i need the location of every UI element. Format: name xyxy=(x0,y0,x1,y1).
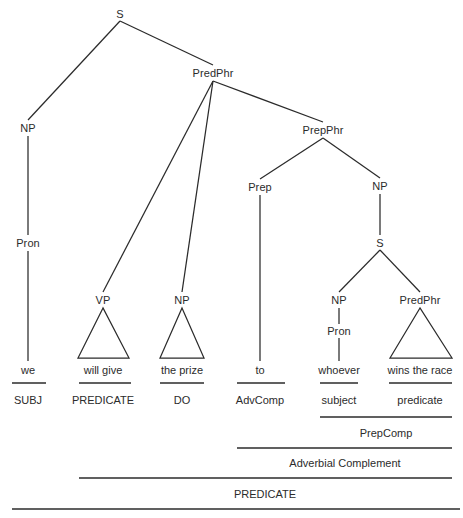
func-subject: subject xyxy=(322,395,357,406)
func-subj: SUBJ xyxy=(14,395,42,406)
node-pron-embedded: Pron xyxy=(327,326,351,337)
node-prep: Prep xyxy=(248,182,272,193)
leaf-the-prize: the prize xyxy=(161,365,203,376)
tree-branch-predphr-main-to-np-object xyxy=(182,81,213,292)
node-np-embedded-subj: NP xyxy=(331,295,346,306)
tree-branch-s-embedded-to-np-embedded-subj xyxy=(339,250,380,292)
leaf-wins-the-race: wins the race xyxy=(388,365,453,376)
node-vp-main: VP xyxy=(96,295,111,306)
node-predphr-embedded: PredPhr xyxy=(399,295,440,306)
tree-branch-prepphr-to-prep xyxy=(260,138,323,179)
node-s-embedded: S xyxy=(376,238,383,249)
tri-vp-triangle xyxy=(78,308,129,358)
node-np-object: NP xyxy=(174,295,189,306)
row-predicate-label: PREDICATE xyxy=(234,489,296,500)
node-prepphr: PrepPhr xyxy=(302,125,343,136)
tree-triangle-group xyxy=(78,308,452,358)
tree-branch-s-embedded-to-predphr-embedded xyxy=(380,250,420,292)
node-np-prepcomp: NP xyxy=(372,181,387,192)
tree-branch-predphr-main-to-vp-main xyxy=(103,81,213,292)
func-do: DO xyxy=(174,395,191,406)
node-s-root: S xyxy=(116,9,123,20)
leaf-we: we xyxy=(21,365,35,376)
syntax-tree-diagram: SNPPronPredPhrVPNPPrepPhrPrepNPSNPPronPr… xyxy=(0,0,463,518)
tree-branch-s-root-to-np-subject xyxy=(28,21,120,120)
leaf-to: to xyxy=(255,365,264,376)
node-predphr-main: PredPhr xyxy=(192,68,233,79)
func-predicate: PREDICATE xyxy=(72,395,134,406)
row-prepcomp-label: PrepComp xyxy=(360,428,413,439)
tree-branch-prepphr-to-np-prepcomp xyxy=(323,138,380,178)
tree-branch-predphr-main-to-prepphr xyxy=(213,81,323,122)
row-advcomp-label: Adverbial Complement xyxy=(289,458,400,469)
leaf-whoever: whoever xyxy=(318,365,360,376)
tri-predphr-triangle xyxy=(390,308,452,358)
node-pron-subject: Pron xyxy=(16,238,40,249)
node-np-subject: NP xyxy=(20,123,35,134)
tri-np-triangle xyxy=(160,308,204,358)
func-advcomp: AdvComp xyxy=(236,395,284,406)
leaf-will-give: will give xyxy=(84,365,123,376)
func-predicate2: predicate xyxy=(397,395,442,406)
tree-branch-s-root-to-predphr-main xyxy=(120,21,213,65)
